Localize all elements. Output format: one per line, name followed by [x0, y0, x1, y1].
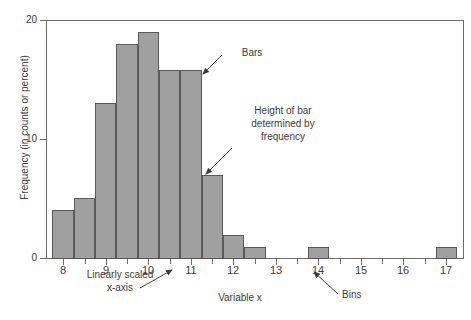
- x-tick-label-16: 16: [388, 264, 418, 276]
- x-tick-9.5: [127, 259, 128, 264]
- x-tick-13.5: [297, 259, 298, 264]
- x-tick-8.5: [85, 259, 86, 264]
- x-tick-14.5: [340, 259, 341, 264]
- x-tick-10.5: [170, 259, 171, 264]
- y-tick-0: [40, 258, 46, 259]
- x-tick-label-13: 13: [261, 264, 291, 276]
- annotation-height-of-bar: Height of bar determined by frequency: [228, 104, 338, 143]
- x-tick-16.5: [425, 259, 426, 264]
- bar-10.0: [138, 32, 159, 259]
- annotation-bins: Bins: [342, 288, 392, 301]
- y-tick-20: [40, 20, 46, 21]
- y-axis-line: [46, 20, 47, 259]
- bar-9.5: [116, 44, 138, 259]
- x-tick-label-14: 14: [303, 264, 333, 276]
- x-tick-label-17: 17: [431, 264, 461, 276]
- bar-11.0: [180, 70, 202, 259]
- x-tick-12.5: [255, 259, 256, 264]
- plot-frame-top: [46, 20, 464, 21]
- annotation-bars: Bars: [222, 46, 282, 59]
- bar-11.5: [202, 175, 223, 259]
- histogram-figure: 20 10 0 Frequency (in counts or percent)…: [0, 0, 471, 320]
- y-tick-label-0: 0: [31, 252, 37, 263]
- bar-8.0: [52, 210, 74, 259]
- bar-10.5: [159, 70, 180, 259]
- x-axis-title: Variable x: [180, 292, 300, 303]
- bar-12.0: [223, 235, 244, 259]
- bar-12.5: [244, 247, 266, 259]
- x-tick-11.5: [212, 259, 213, 264]
- bar-14.0: [308, 247, 329, 259]
- bar-17.0: [436, 247, 457, 259]
- x-tick-label-15: 15: [346, 264, 376, 276]
- x-tick-15.5: [382, 259, 383, 264]
- plot-frame-right: [463, 20, 464, 259]
- bar-9.0: [95, 103, 116, 259]
- bar-8.5: [74, 198, 95, 259]
- annotation-linear-axis: Linearly scaled x-axis: [50, 268, 190, 294]
- y-tick-10: [40, 139, 46, 140]
- x-tick-label-12: 12: [218, 264, 248, 276]
- y-axis-title: Frequency (in counts or percent): [19, 18, 30, 238]
